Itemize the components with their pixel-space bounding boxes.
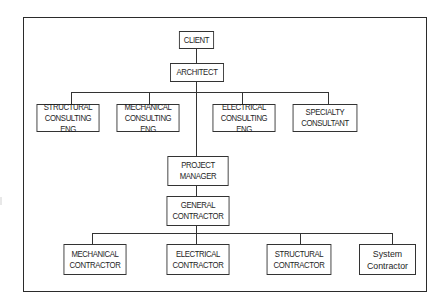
node-label-line1: STRUCTURAL <box>275 249 323 260</box>
connector-gc-trunk <box>196 225 197 244</box>
node-label-line1: GENERAL <box>181 200 215 211</box>
node-label-line2: CONSULTANT <box>301 118 349 129</box>
node-label-line1: STRUCTURAL <box>44 102 92 113</box>
node-general-contractor: GENERAL CONTRACTOR <box>167 196 230 226</box>
node-structural-consulting-eng: STRUCTURAL CONSULTING ENG <box>37 104 100 132</box>
node-label-line1: SPECIALTY <box>306 107 345 118</box>
connector-consultants-bus <box>71 92 329 93</box>
node-label-line2: CONTRACTOR <box>70 260 121 271</box>
node-label-line1: ELECTRICAL <box>222 102 266 113</box>
node-label-line2: CONTRACTOR <box>274 260 325 271</box>
node-electrical-contractor: ELECTRICAL CONTRACTOR <box>167 244 230 275</box>
connector-system-contractor <box>392 233 393 244</box>
node-label: CLIENT <box>184 35 209 46</box>
connector-contractors-bus <box>92 233 393 234</box>
node-label-line1: ELECTRICAL <box>176 249 220 260</box>
node-system-contractor: System Contractor <box>359 244 416 275</box>
node-specialty-consultant: SPECIALTY CONSULTANT <box>293 104 358 132</box>
connector-mechanical-contractor <box>92 233 93 244</box>
node-label-line2: CONTRACTOR <box>173 260 224 271</box>
node-label-line2: CONSULTING ENG <box>213 113 274 135</box>
node-project-manager: PROJECT MANAGER <box>167 156 228 186</box>
node-label: ARCHITECT <box>176 67 217 78</box>
node-label-line2: CONSULTING ENG <box>117 113 178 135</box>
node-mechanical-consulting-eng: MECHANICAL CONSULTING ENG <box>117 104 180 132</box>
connector-client-architect <box>196 48 197 63</box>
node-client: CLIENT <box>179 31 214 49</box>
node-structural-contractor: STRUCTURAL CONTRACTOR <box>267 244 332 275</box>
node-architect: ARCHITECT <box>170 63 224 82</box>
edge-artifact <box>0 197 2 205</box>
node-label-line1: System <box>373 248 402 260</box>
node-label-line2: CONSULTING ENG <box>37 113 98 135</box>
node-mechanical-contractor: MECHANICAL CONTRACTOR <box>64 244 127 275</box>
node-electrical-consulting-eng: ELECTRICAL CONSULTING ENG <box>213 104 276 132</box>
node-label-line2: Contractor <box>367 260 408 272</box>
connector-pm-gc <box>196 185 197 196</box>
connector-specialty-consultant <box>328 92 329 104</box>
node-label-line1: MECHANICAL <box>71 249 118 260</box>
connector-structural-contractor <box>300 233 301 244</box>
node-label-line2: CONTRACTOR <box>173 211 224 222</box>
node-label-line2: MANAGER <box>180 171 217 182</box>
node-label-line1: PROJECT <box>181 160 215 171</box>
node-label-line1: MECHANICAL <box>124 102 171 113</box>
